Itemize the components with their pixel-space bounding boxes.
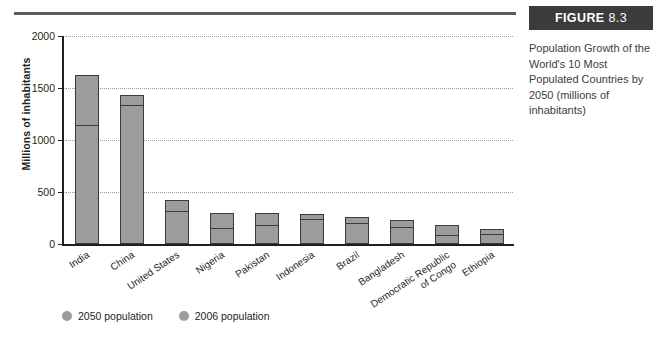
bar-2006-divider (256, 225, 278, 226)
bar-2006-divider (211, 228, 233, 229)
chart-legend: 2050 population2006 population (62, 310, 270, 322)
bar-group[interactable] (75, 36, 99, 244)
legend-label: 2006 population (195, 310, 270, 322)
figure-label: FIGURE (555, 11, 605, 25)
bar-2050[interactable] (120, 95, 144, 244)
x-axis-line (62, 244, 514, 246)
bar-2006-divider (391, 227, 413, 228)
bar-group[interactable] (165, 36, 189, 244)
figure-number: 8.3 (608, 11, 627, 25)
bar-group[interactable] (435, 36, 459, 244)
x-axis-label: Brazil (334, 249, 361, 273)
bar-2050[interactable] (345, 217, 369, 244)
x-axis-label: India (67, 249, 91, 271)
x-axis-label: Pakistan (233, 249, 271, 280)
bar-2050[interactable] (255, 213, 279, 244)
y-tick-mark (58, 244, 62, 245)
bar-2050[interactable] (165, 200, 189, 244)
figure-caption-panel: FIGURE 8.3 Population Growth of the Worl… (529, 6, 653, 136)
y-tick-label: 1000 (32, 134, 55, 146)
y-tick-label: 0 (49, 238, 55, 250)
y-tick-label: 500 (37, 186, 55, 198)
x-axis-label: Ethiopia (460, 249, 496, 279)
y-axis-line (62, 36, 64, 245)
bar-2006-divider (76, 125, 98, 126)
bar-2050[interactable] (75, 75, 99, 244)
bar-group[interactable] (390, 36, 414, 244)
bar-2006-divider (301, 219, 323, 220)
x-axis-label: Indonesia (274, 249, 316, 283)
bar-2050[interactable] (480, 229, 504, 244)
y-tick-label: 2000 (32, 30, 55, 42)
bar-group[interactable] (480, 36, 504, 244)
bar-2050[interactable] (300, 214, 324, 244)
bar-group[interactable] (300, 36, 324, 244)
y-axis-title: Millions of inhabitants (20, 44, 32, 184)
bar-2006-divider (436, 235, 458, 236)
legend-swatch-circle-icon (179, 311, 189, 321)
plot-area: 0500100015002000 IndiaChinaUnited States… (62, 36, 513, 244)
bar-2050[interactable] (435, 225, 459, 244)
y-tick-mark (58, 140, 62, 141)
y-tick-label: 1500 (32, 82, 55, 94)
figure-caption-text: Population Growth of the World's 10 Most… (529, 41, 653, 119)
bar-2006-divider (166, 211, 188, 212)
bar-group[interactable] (210, 36, 234, 244)
legend-item[interactable]: 2050 population (62, 310, 153, 322)
bar-2006-divider (346, 223, 368, 224)
legend-label: 2050 population (78, 310, 153, 322)
bar-group[interactable] (255, 36, 279, 244)
y-tick-mark (58, 36, 62, 37)
chart-figure: Millions of inhabitants 0500100015002000… (0, 0, 530, 340)
figure-number-header: FIGURE 8.3 (529, 6, 653, 30)
bar-group[interactable] (120, 36, 144, 244)
bar-2050[interactable] (390, 220, 414, 244)
bar-2006-divider (481, 234, 503, 235)
bar-group[interactable] (345, 36, 369, 244)
y-tick-mark (58, 88, 62, 89)
legend-item[interactable]: 2006 population (179, 310, 270, 322)
legend-swatch-circle-icon (62, 311, 72, 321)
x-axis-label: China (108, 249, 136, 273)
bar-2050[interactable] (210, 213, 234, 244)
x-axis-label: Nigeria (194, 249, 227, 276)
y-tick-mark (58, 192, 62, 193)
bar-2006-divider (121, 105, 143, 106)
